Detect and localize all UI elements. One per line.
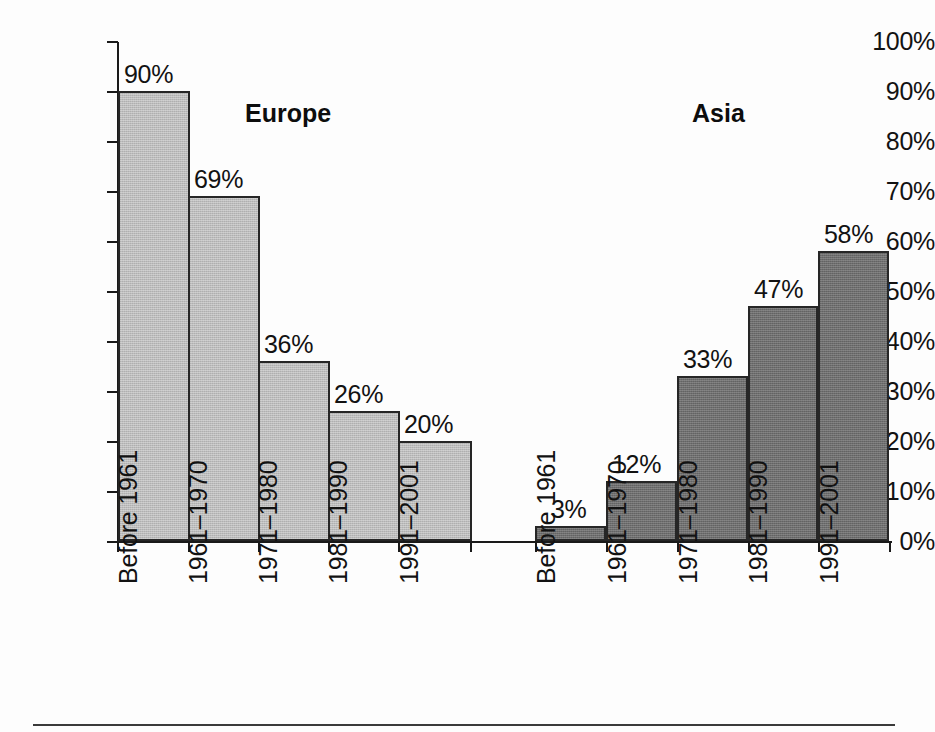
plot-area: 100% 90% 80% 70% 60% 50% 40% 30% 20% 10%…	[0, 0, 935, 732]
x-label-europe-1971-1980: 1971–1980	[256, 461, 281, 584]
x-label-asia-1961-1970: 1961–1970	[605, 461, 630, 584]
x-axis-baseline	[117, 541, 892, 543]
y-tick-label-80: 80%	[837, 129, 935, 154]
group-title-asia: Asia	[692, 101, 745, 126]
x-label-asia-1991-2001: 1991–2001	[817, 461, 842, 584]
y-tick-40	[107, 341, 118, 343]
bar-value-europe-before-1961: 90%	[124, 62, 173, 87]
y-tick-60	[107, 241, 118, 243]
y-tick-100	[107, 41, 118, 43]
bar-value-europe-1981-1990: 26%	[334, 382, 383, 407]
bar-value-europe-1961-1970: 69%	[194, 167, 243, 192]
x-tick-asia-5	[889, 541, 891, 552]
x-label-europe-before-1961: Before 1961	[116, 450, 141, 584]
x-label-asia-1981-1990: 1981–1990	[746, 461, 771, 584]
x-label-asia-1971-1980: 1971–1980	[676, 461, 701, 584]
chart-figure: 100% 90% 80% 70% 60% 50% 40% 30% 20% 10%…	[0, 0, 935, 732]
bar-value-asia-1981-1990: 47%	[754, 277, 803, 302]
y-tick-90	[107, 91, 118, 93]
bar-value-europe-1991-2001: 20%	[404, 412, 453, 437]
y-tick-label-70: 70%	[837, 179, 935, 204]
y-tick-30	[107, 391, 118, 393]
bottom-divider-rule	[33, 724, 895, 726]
bar-value-asia-1991-2001: 58%	[824, 222, 873, 247]
group-title-europe: Europe	[245, 101, 331, 126]
x-label-europe-1961-1970: 1961–1970	[186, 461, 211, 584]
y-tick-50	[107, 291, 118, 293]
bar-value-asia-1971-1980: 33%	[683, 347, 732, 372]
bar-value-europe-1971-1980: 36%	[264, 332, 313, 357]
x-tick-europe-5	[470, 541, 472, 552]
y-tick-70	[107, 191, 118, 193]
y-tick-80	[107, 141, 118, 143]
y-tick-label-90: 90%	[837, 79, 935, 104]
x-label-europe-1991-2001: 1991–2001	[397, 461, 422, 584]
x-label-asia-before-1961: Before 1961	[534, 450, 559, 584]
y-tick-label-100: 100%	[837, 29, 935, 54]
y-tick-20	[107, 441, 118, 443]
x-label-europe-1981-1990: 1981–1990	[326, 461, 351, 584]
